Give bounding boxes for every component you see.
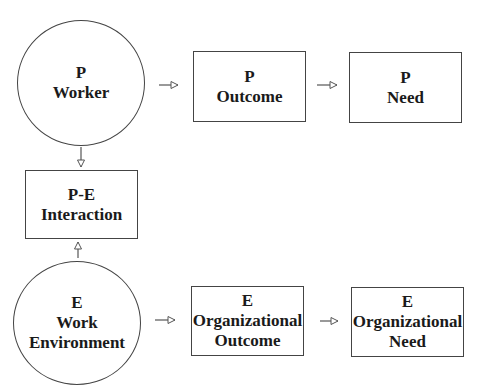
- node-e-work-environment: E Work Environment: [13, 261, 141, 385]
- node-label: Organizational: [353, 312, 463, 332]
- node-label: E: [242, 291, 253, 311]
- node-label: Need: [389, 332, 426, 352]
- node-label: Interaction: [41, 205, 122, 225]
- node-label: Work: [56, 313, 98, 333]
- node-p-outcome: P Outcome: [193, 51, 306, 122]
- node-e-org-outcome: E Organizational Outcome: [191, 286, 304, 356]
- node-p-worker: P Worker: [17, 20, 145, 146]
- node-label: P: [244, 67, 254, 87]
- node-label: Environment: [29, 333, 125, 353]
- node-label: Outcome: [216, 87, 282, 107]
- node-pe-interaction: P-E Interaction: [25, 170, 138, 239]
- node-label: Outcome: [214, 331, 280, 351]
- node-label: Organizational: [193, 311, 303, 331]
- node-label: Worker: [53, 83, 110, 103]
- node-label: E: [71, 293, 82, 313]
- node-label: P-E: [68, 185, 95, 205]
- node-label: P: [76, 63, 86, 83]
- node-label: P: [400, 68, 410, 88]
- node-label: E: [402, 292, 413, 312]
- node-e-org-need: E Organizational Need: [351, 287, 464, 357]
- node-p-need: P Need: [349, 52, 462, 123]
- node-label: Need: [387, 88, 424, 108]
